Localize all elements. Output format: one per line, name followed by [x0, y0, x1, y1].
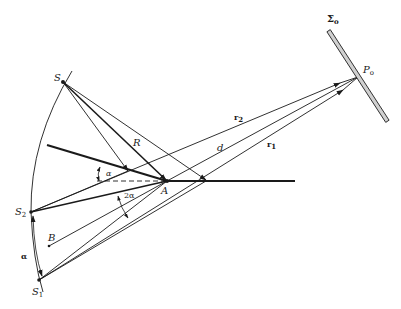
line-B-to-A: [49, 181, 167, 246]
ray-d: [167, 77, 358, 181]
label-S2: S2: [15, 207, 26, 219]
label-d: d: [217, 143, 223, 153]
ray-S-to-mirror-upper: [63, 82, 128, 171]
label-B: B: [48, 233, 55, 243]
label-S1: S1: [32, 287, 43, 299]
ray-B-parallel: [49, 95, 305, 246]
angle-alpha-arc: [98, 167, 100, 181]
screen-sigma0: [327, 30, 389, 123]
arc-tick: [32, 153, 33, 160]
label-A: A: [161, 186, 168, 196]
arc-S2-S1-alpha: [33, 216, 42, 276]
label-r1: r1: [267, 140, 276, 150]
point-S2: [29, 210, 33, 214]
line-S1-to-mirror-lower: [39, 181, 206, 280]
label-P0: Po: [363, 65, 374, 77]
label-S: S: [54, 73, 61, 83]
label-2alpha: 2α: [124, 192, 135, 200]
point-B: [48, 245, 51, 248]
point-A: [165, 179, 169, 183]
label-r2: r2: [234, 113, 243, 123]
label-alpha: α: [106, 170, 111, 178]
ray-S-to-mirror-lower: [63, 82, 206, 180]
label-sigma0: Σo: [327, 14, 339, 25]
fresnel-mirror-diagram: [0, 0, 401, 309]
point-S: [61, 80, 65, 84]
point-S1: [37, 278, 41, 282]
ray-r1: [39, 90, 343, 280]
line-S2-up-to-mirror: [31, 171, 128, 212]
label-R: R: [133, 138, 141, 148]
label-alpha-arc: α: [21, 252, 27, 260]
